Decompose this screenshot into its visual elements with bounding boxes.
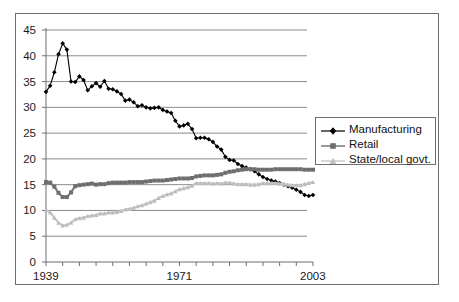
legend-label-retail: Retail — [349, 138, 378, 150]
y-tick-label: 5 — [12, 230, 36, 242]
y-tick-label: 25 — [12, 127, 36, 139]
x-tick-label: 1971 — [167, 270, 193, 282]
legend-item-manufacturing: Manufacturing — [320, 121, 422, 136]
y-tick-label: 10 — [12, 204, 36, 216]
x-tick-label: 2003 — [300, 270, 326, 282]
y-tick-label: 0 — [12, 256, 36, 268]
y-tick-label: 40 — [12, 50, 36, 62]
y-tick-label: 35 — [12, 76, 36, 88]
chart-legend: Manufacturing Retail State/local govt. — [315, 117, 436, 165]
legend-marker-square-icon — [320, 138, 346, 150]
legend-label-manufacturing: Manufacturing — [349, 123, 422, 135]
y-tick-label: 15 — [12, 179, 36, 191]
legend-marker-diamond-icon — [320, 123, 346, 135]
y-tick-label: 30 — [12, 101, 36, 113]
legend-item-retail: Retail — [320, 136, 378, 151]
x-tick-label: 1939 — [33, 270, 59, 282]
series-manufacturing — [44, 41, 316, 198]
y-tick-label: 45 — [12, 24, 36, 36]
legend-marker-triangle-icon — [320, 153, 346, 165]
legend-item-state-local-govt: State/local govt. — [320, 151, 431, 166]
series-state-local-govt — [44, 180, 315, 227]
chart-figure: 051015202530354045 193919712003 Manufact… — [0, 0, 459, 302]
legend-label-state-local-govt: State/local govt. — [349, 153, 431, 165]
y-tick-label: 20 — [12, 153, 36, 165]
